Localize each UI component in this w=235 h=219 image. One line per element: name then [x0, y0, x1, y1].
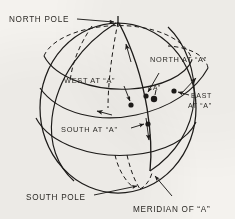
- north-pole-leader: [77, 19, 114, 22]
- meridian-of-a-leader: [155, 176, 172, 196]
- lower-latitude-circle-front: [36, 118, 196, 155]
- label-meridian-of-a: MERIDIAN OF “A”: [133, 205, 210, 214]
- left-meridian-arc: [51, 23, 116, 181]
- label-point-a: “A”: [150, 84, 161, 91]
- horizon-direction-arrow-west: [97, 111, 112, 115]
- west-direction-marker: [128, 102, 133, 107]
- hidden-meridian-dashed-left: [70, 26, 92, 82]
- west-at-a-leader: [124, 86, 130, 101]
- south-direction-marker: [145, 121, 150, 126]
- point-a-marker: [151, 96, 157, 102]
- sphere-diagram: NORTH POLE NORTH AT “A” WEST AT “A” EAST…: [0, 0, 235, 219]
- north-direction-marker: [143, 93, 148, 98]
- label-east-at-a-line1: EAST: [191, 92, 212, 99]
- label-east-at-a-line2: AT “A”: [188, 102, 212, 109]
- polar-axis-dashed: [108, 22, 118, 108]
- label-south-pole: SOUTH POLE: [26, 193, 86, 202]
- south-at-a-leader: [131, 124, 144, 128]
- figure-canvas: NORTH POLE NORTH AT “A” WEST AT “A” EAST…: [0, 0, 235, 219]
- label-north-pole: NORTH POLE: [9, 15, 69, 24]
- east-direction-marker: [171, 88, 176, 93]
- hidden-meridian-dashed-south-c: [140, 173, 152, 189]
- label-north-at-a: NORTH AT “A”: [150, 55, 207, 64]
- label-west-at-a: WEST AT “A”: [64, 76, 115, 85]
- label-south-at-a: SOUTH AT “A”: [61, 125, 118, 134]
